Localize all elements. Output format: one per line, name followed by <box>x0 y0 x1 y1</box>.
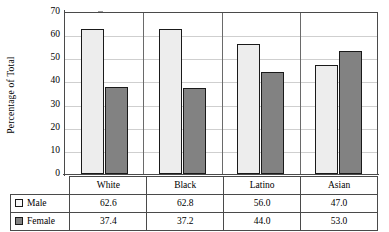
y-axis-title: Percentage of Total <box>2 30 20 160</box>
bar-asian-male <box>315 65 338 174</box>
cell-female-black: 37.2 <box>147 213 224 231</box>
data-table: WhiteBlackLatinoAsian Male62.662.856.047… <box>10 176 378 231</box>
bar-group-white <box>65 13 143 174</box>
cell-male-asian: 47.0 <box>301 195 378 213</box>
y-axis-tick-10: 10 <box>38 146 60 156</box>
bar-black-female <box>183 88 206 174</box>
x-axis-line <box>63 174 379 175</box>
y-axis-title-text: Percentage of Total <box>6 56 16 133</box>
table-header-black: Black <box>147 177 224 195</box>
table-header-asian: Asian <box>301 177 378 195</box>
female-swatch-icon <box>15 217 23 225</box>
cell-male-black: 62.8 <box>147 195 224 213</box>
y-axis-tick-labels: 706050403020100 <box>38 12 60 174</box>
y-axis-tick-30: 30 <box>38 100 60 110</box>
bar-latino-female <box>261 72 284 174</box>
table-header-row: WhiteBlackLatinoAsian <box>11 177 378 195</box>
table-row: Male62.662.856.047.0 <box>11 195 378 213</box>
bar-black-male <box>159 29 182 174</box>
bar-group-asian <box>300 13 378 174</box>
y-axis-tick-40: 40 <box>38 77 60 87</box>
bar-group-black <box>143 13 221 174</box>
y-axis-tick-60: 60 <box>38 30 60 40</box>
male-swatch-icon <box>15 199 23 207</box>
group-separator-3 <box>300 13 301 174</box>
bar-chart-figure: Percentage of Total 706050403020100 Whit… <box>0 0 389 232</box>
table-corner-cell <box>11 177 70 195</box>
table-header-latino: Latino <box>224 177 301 195</box>
cell-female-latino: 44.0 <box>224 213 301 231</box>
bar-latino-male <box>237 44 260 174</box>
cell-female-asian: 53.0 <box>301 213 378 231</box>
group-separator-2 <box>222 13 223 174</box>
cell-male-white: 62.6 <box>70 195 147 213</box>
legend-label-male: Male <box>27 198 47 208</box>
bar-asian-female <box>339 51 362 174</box>
bar-white-male <box>81 29 104 174</box>
legend-item-female[interactable]: Female <box>11 213 70 231</box>
legend-item-male[interactable]: Male <box>11 195 70 213</box>
legend-label-female: Female <box>27 216 55 226</box>
bar-group-latino <box>222 13 300 174</box>
table-row: Female37.437.244.053.0 <box>11 213 378 231</box>
y-axis-tick-50: 50 <box>38 54 60 64</box>
bar-series-container <box>65 13 377 174</box>
y-axis-tick-70: 70 <box>38 7 60 17</box>
y-axis-tick-20: 20 <box>38 123 60 133</box>
table-header-white: White <box>70 177 147 195</box>
group-separator-1 <box>143 13 144 174</box>
table-body: Male62.662.856.047.0Female37.437.244.053… <box>11 195 378 231</box>
bar-white-female <box>105 87 128 174</box>
cell-male-latino: 56.0 <box>224 195 301 213</box>
cell-female-white: 37.4 <box>70 213 147 231</box>
plot-area <box>65 12 378 174</box>
